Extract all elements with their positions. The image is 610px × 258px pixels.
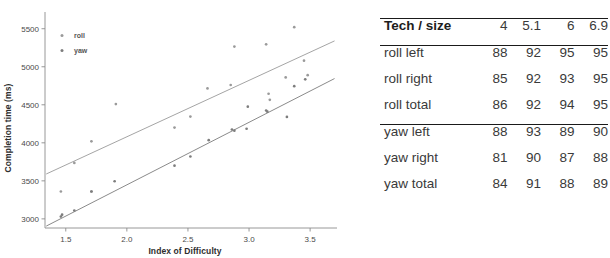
row-value-0: 88	[474, 46, 507, 73]
y-tick-label: 5500	[21, 25, 39, 34]
table-header-row: Tech / size 4 5.1 6 6.9	[380, 19, 608, 46]
row-value-2: 93	[541, 72, 574, 98]
x-tick-label: 3.0	[243, 235, 255, 244]
data-point-yaw	[61, 213, 64, 216]
row-label: yaw right	[380, 151, 474, 177]
legend-label-roll: roll	[74, 32, 85, 39]
y-tick-label: 5000	[21, 63, 39, 72]
x-axis-title: Index of Difficulty	[148, 246, 221, 256]
table-header-col-0: 4	[474, 19, 507, 46]
data-point-yaw	[90, 190, 93, 193]
data-point-yaw	[245, 127, 248, 130]
row-value-3: 95	[574, 72, 608, 98]
y-axis-title: Completion time (ms)	[3, 83, 13, 172]
data-point-yaw	[233, 129, 236, 132]
legend-marker-yaw	[61, 49, 64, 52]
data-point-yaw	[231, 128, 234, 131]
data-point-roll	[115, 103, 118, 106]
row-label: roll right	[380, 72, 474, 98]
data-point-yaw	[293, 85, 296, 88]
row-label: roll left	[380, 46, 474, 73]
data-point-roll	[265, 43, 268, 46]
table-row: yaw left 88 93 89 90	[380, 125, 608, 152]
data-point-roll	[229, 84, 232, 87]
row-value-3: 95	[574, 46, 608, 73]
data-point-yaw	[113, 180, 116, 183]
y-tick-label: 3500	[21, 177, 39, 186]
row-value-1: 91	[508, 177, 542, 203]
data-point-roll	[306, 74, 309, 77]
results-table: Tech / size 4 5.1 6 6.9 roll left 88 92 …	[380, 18, 608, 203]
data-point-roll	[293, 26, 296, 29]
data-point-roll	[60, 190, 63, 193]
row-value-1: 93	[508, 125, 542, 152]
data-point-roll	[73, 162, 76, 165]
data-point-yaw	[189, 155, 192, 158]
row-value-0: 88	[474, 125, 507, 152]
data-point-yaw	[304, 78, 307, 81]
fit-line-yaw	[46, 79, 334, 227]
row-value-2: 87	[541, 151, 574, 177]
data-point-yaw	[207, 139, 210, 142]
row-value-3: 95	[574, 98, 608, 125]
row-value-2: 94	[541, 98, 574, 125]
table-row: roll total 86 92 94 95	[380, 98, 608, 125]
table-header-col-3: 6.9	[574, 19, 608, 46]
row-value-2: 89	[541, 125, 574, 152]
scatter-chart: 3000350040004500500055001.52.02.53.03.5 …	[0, 0, 345, 258]
data-point-roll	[303, 59, 306, 62]
data-point-roll	[173, 126, 176, 129]
table-row: yaw right 81 90 87 88	[380, 151, 608, 177]
row-value-1: 92	[508, 46, 542, 73]
row-value-1: 90	[508, 151, 542, 177]
row-value-1: 92	[508, 72, 542, 98]
chart-axes	[42, 12, 338, 232]
row-value-3: 88	[574, 151, 608, 177]
table-header-label: Tech / size	[380, 19, 474, 46]
data-point-yaw	[173, 164, 176, 167]
figure-and-table-panel: 3000350040004500500055001.52.02.53.03.5 …	[0, 0, 610, 258]
row-value-3: 89	[574, 177, 608, 203]
row-value-2: 88	[541, 177, 574, 203]
y-tick-label: 4000	[21, 139, 39, 148]
table-header-col-2: 6	[541, 19, 574, 46]
chart-legend: rollyaw	[61, 32, 88, 55]
legend-marker-roll	[61, 34, 64, 37]
data-point-roll	[284, 76, 287, 79]
data-point-roll	[206, 87, 209, 90]
row-label: yaw total	[380, 177, 474, 203]
data-point-yaw	[246, 105, 249, 108]
data-point-roll	[189, 115, 192, 118]
data-point-roll	[268, 98, 271, 101]
x-tick-label: 2.5	[182, 235, 194, 244]
data-point-roll	[90, 140, 93, 143]
table-row: yaw total 84 91 88 89	[380, 177, 608, 203]
x-tick-label: 3.5	[305, 235, 317, 244]
data-point-yaw	[73, 209, 76, 212]
y-tick-label: 3000	[21, 215, 39, 224]
y-tick-label: 4500	[21, 101, 39, 110]
table-row: roll right 85 92 93 95	[380, 72, 608, 98]
legend-label-yaw: yaw	[74, 47, 88, 55]
data-point-roll	[267, 92, 270, 95]
row-value-0: 84	[474, 177, 507, 203]
results-table-container: Tech / size 4 5.1 6 6.9 roll left 88 92 …	[380, 18, 608, 203]
table-head: Tech / size 4 5.1 6 6.9	[380, 19, 608, 46]
row-value-0: 81	[474, 151, 507, 177]
table-header-col-1: 5.1	[508, 19, 542, 46]
regression-lines	[46, 41, 334, 226]
row-label: yaw left	[380, 125, 474, 152]
row-value-0: 86	[474, 98, 507, 125]
fit-line-roll	[46, 41, 334, 174]
row-label: roll total	[380, 98, 474, 125]
tick-labels: 3000350040004500500055001.52.02.53.03.5	[21, 25, 316, 244]
data-points	[60, 26, 309, 218]
table-body: roll left 88 92 95 95 roll right 85 92 9…	[380, 46, 608, 204]
row-value-1: 92	[508, 98, 542, 125]
row-value-2: 95	[541, 46, 574, 73]
data-point-roll	[233, 45, 236, 48]
x-tick-label: 2.0	[121, 235, 133, 244]
x-tick-label: 1.5	[60, 235, 72, 244]
chart-canvas: 3000350040004500500055001.52.02.53.03.5 …	[0, 0, 345, 258]
row-value-3: 90	[574, 125, 608, 152]
